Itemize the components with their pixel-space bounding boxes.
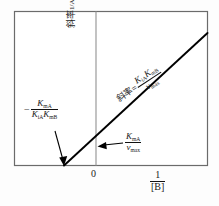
origin-label: 0 <box>91 168 96 179</box>
secondary-plot-figure: − KmA KiAKmB KmA vmax 斜率= KiAKmB vmax 斜率… <box>0 0 219 206</box>
x-axis-title: 1 [B] <box>150 170 165 193</box>
plot-frame <box>15 12 208 166</box>
x-intercept-denominator: KiAKmB <box>31 109 59 120</box>
x-axis-title-fraction: 1 [B] <box>150 170 165 193</box>
y-intercept-annotation: KmA vmax <box>125 132 141 152</box>
x-axis-title-numerator: 1 <box>150 170 165 181</box>
y-intercept-fraction: KmA vmax <box>125 132 141 152</box>
x-intercept-numerator: KmA <box>31 99 59 109</box>
y-intercept-numerator: KmA <box>125 132 141 142</box>
y-axis-title: 斜率1/A <box>64 0 77 28</box>
y-axis-title-cjk: 斜率 <box>66 10 76 28</box>
x-axis-title-denominator: [B] <box>150 181 165 193</box>
km-a-subscript-2: mA <box>132 136 140 142</box>
y-intercept-denominator: vmax <box>125 142 141 153</box>
vmax-subscript: max <box>130 146 140 152</box>
x-intercept-annotation: − KmA KiAKmB <box>24 99 58 119</box>
y-axis-title-subscript: 1/A <box>68 0 76 10</box>
km-b-subscript: mB <box>49 113 57 119</box>
km-a-subscript: mA <box>43 103 51 109</box>
x-intercept-fraction: KmA KiAKmB <box>31 99 59 119</box>
x-intercept-minus-sign: − <box>24 104 30 115</box>
